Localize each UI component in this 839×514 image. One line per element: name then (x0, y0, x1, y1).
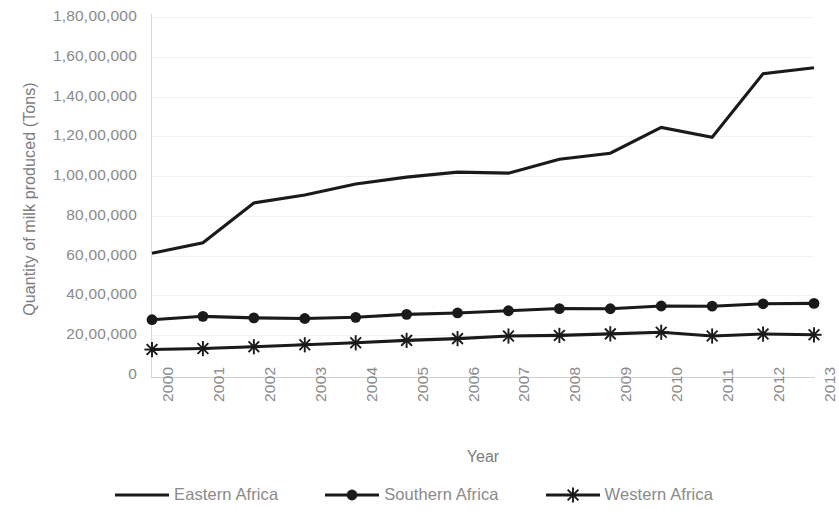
x-axis-tick-label: 2003 (312, 367, 330, 402)
asterisk-marker (501, 328, 516, 343)
y-axis-tick-label: 40,00,000 (66, 285, 137, 303)
y-axis-tick-label: 1,20,00,000 (53, 126, 137, 144)
legend-item[interactable]: Southern Africa (324, 485, 498, 504)
y-axis-tick-label: 1,60,00,000 (53, 47, 137, 65)
circle-marker (147, 314, 158, 325)
x-axis-tick-label: 2000 (159, 367, 177, 402)
x-axis-tick-label: 2013 (821, 367, 839, 402)
legend-label: Western Africa (605, 485, 713, 504)
circle-marker (248, 313, 259, 324)
x-axis-title: Year (152, 448, 814, 466)
asterisk-marker (246, 339, 261, 354)
y-axis-tick-label: 1,40,00,000 (53, 87, 137, 105)
legend-swatch-icon (114, 486, 170, 504)
asterisk-marker (603, 326, 618, 341)
legend-item[interactable]: Western Africa (545, 485, 713, 504)
y-axis-tick-label: 80,00,000 (66, 206, 137, 224)
y-axis-tick-label: 0 (128, 365, 137, 383)
circle-marker (503, 305, 514, 316)
asterisk-marker (705, 328, 720, 343)
asterisk-marker (450, 331, 465, 346)
x-axis-tick-label: 2008 (566, 367, 584, 402)
asterisk-marker (755, 326, 770, 341)
x-axis-tick-label: 2005 (414, 367, 432, 402)
asterisk-marker (195, 341, 210, 356)
plot-area (152, 17, 814, 375)
asterisk-marker (297, 337, 312, 352)
y-axis-tick-label: 1,00,00,000 (53, 166, 137, 184)
y-axis-tick-label: 20,00,000 (66, 325, 137, 343)
legend-swatch-icon (324, 486, 380, 504)
x-axis-tick-label: 2010 (668, 367, 686, 402)
asterisk-marker (552, 328, 567, 343)
x-axis-tick-label: 2004 (363, 367, 381, 402)
circle-marker (758, 298, 769, 309)
asterisk-marker (399, 333, 414, 348)
x-axis-tick-labels: 2000200120022003200420052006200720082009… (152, 380, 814, 440)
x-axis-tick-label: 2009 (617, 367, 635, 402)
legend-label: Southern Africa (384, 485, 498, 504)
circle-marker (401, 309, 412, 320)
circle-marker (554, 303, 565, 314)
legend-swatch-icon (545, 486, 601, 504)
asterisk-marker (348, 335, 363, 350)
chart-legend: Eastern AfricaSouthern AfricaWestern Afr… (0, 485, 827, 504)
x-axis-tick-label: 2012 (770, 367, 788, 402)
x-axis-line (151, 377, 815, 378)
circle-marker (198, 311, 209, 322)
circle-marker (299, 313, 310, 324)
legend-label: Eastern Africa (174, 485, 278, 504)
asterisk-marker (144, 342, 159, 357)
circle-marker (809, 298, 820, 309)
circle-marker (452, 308, 463, 319)
asterisk-marker (806, 327, 821, 342)
x-axis-tick-label: 2001 (210, 367, 228, 402)
x-axis-tick-label: 2007 (515, 367, 533, 402)
y-axis-tick-label: 60,00,000 (66, 246, 137, 264)
circle-marker (605, 303, 616, 314)
circle-marker (350, 312, 361, 323)
y-axis-tick-label: 1,80,00,000 (53, 7, 137, 25)
series-line (152, 68, 814, 254)
x-axis-tick-label: 2002 (261, 367, 279, 402)
x-axis-tick-label: 2011 (719, 368, 737, 402)
circle-marker (656, 301, 667, 312)
series-lines (152, 17, 814, 375)
legend-item[interactable]: Eastern Africa (114, 485, 278, 504)
asterisk-marker (565, 487, 580, 502)
circle-marker (707, 301, 718, 312)
y-axis-tick-labels: 020,00,00040,00,00060,00,00080,00,0001,0… (0, 0, 145, 390)
asterisk-marker (654, 325, 669, 340)
x-axis-tick-label: 2006 (465, 367, 483, 402)
